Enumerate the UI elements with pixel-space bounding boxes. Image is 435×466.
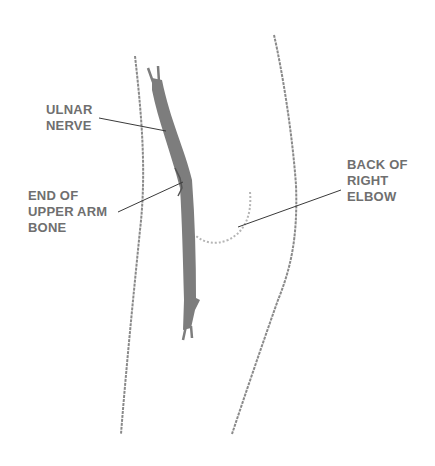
leader-ulnar-nerve bbox=[99, 118, 166, 131]
label-upper-arm-bone: END OF UPPER ARM BONE bbox=[28, 188, 107, 236]
label-line: BACK OF bbox=[347, 157, 408, 173]
label-line: BONE bbox=[28, 220, 107, 236]
label-line: RIGHT bbox=[347, 173, 408, 189]
leader-upper-arm-bone bbox=[118, 182, 183, 212]
label-line: ELBOW bbox=[347, 189, 408, 205]
label-back-of-elbow: BACK OF RIGHT ELBOW bbox=[347, 157, 408, 205]
arm-right-outline bbox=[232, 35, 296, 434]
elbow-tip-curve bbox=[196, 192, 250, 243]
elbow-diagram: ULNAR NERVE END OF UPPER ARM BONE BACK O… bbox=[0, 0, 435, 466]
arm-left-outline bbox=[121, 56, 143, 434]
label-line: UPPER ARM bbox=[28, 204, 107, 220]
label-ulnar-nerve: ULNAR NERVE bbox=[46, 102, 93, 134]
label-line: NERVE bbox=[46, 118, 93, 134]
ulnar-nerve bbox=[152, 78, 200, 330]
label-line: ULNAR bbox=[46, 102, 93, 118]
label-line: END OF bbox=[28, 188, 107, 204]
leader-back-of-elbow bbox=[238, 190, 341, 227]
